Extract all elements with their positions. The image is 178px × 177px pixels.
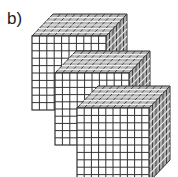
stacked-grid-cubes-diagram (0, 0, 178, 177)
cube-front (77, 86, 170, 177)
